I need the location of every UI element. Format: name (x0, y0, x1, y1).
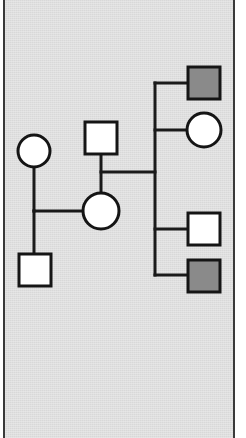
pedigree-symbol-iii-2-female-unaffected[interactable] (187, 113, 221, 147)
pedigree-diagram (0, 0, 246, 438)
connector-layer (34, 83, 188, 275)
pedigree-page: Pedigree chart (0, 0, 246, 438)
pedigree-symbol-i-2-male-unaffected[interactable] (85, 122, 117, 154)
pedigree-symbol-iii-3-male-unaffected[interactable] (188, 213, 220, 245)
pedigree-symbol-ii-2-female-unaffected[interactable] (83, 193, 119, 229)
symbol-layer (18, 67, 221, 292)
pedigree-symbol-iii-4-male-affected[interactable] (188, 260, 220, 292)
pedigree-symbol-ii-1-male-unaffected[interactable] (19, 254, 51, 286)
pedigree-symbol-iii-1-male-affected[interactable] (188, 67, 220, 99)
pedigree-symbol-i-1-female-unaffected[interactable] (18, 135, 50, 167)
